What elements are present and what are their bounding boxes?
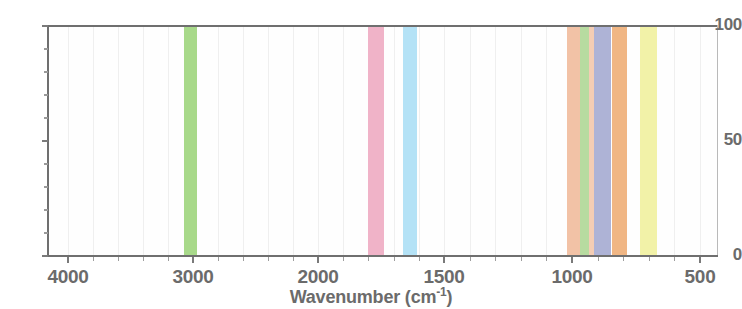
y-axis-minor-tick: [44, 232, 48, 234]
x-axis-minor-tick: [649, 257, 650, 261]
gridline: [268, 26, 269, 256]
gridline: [343, 26, 344, 256]
x-axis-tick: [571, 257, 573, 263]
ir-spectrum-band-chart: 050100 40003000200015001000500 Wavenumbe…: [0, 0, 742, 309]
gridline: [495, 26, 496, 256]
gridline: [68, 26, 69, 256]
gridline: [118, 26, 119, 256]
x-axis-minor-tick: [268, 257, 269, 261]
x-axis-tick: [317, 257, 319, 263]
x-axis-minor-tick: [368, 257, 369, 261]
x-axis-minor-tick: [470, 257, 471, 261]
gridline: [218, 26, 219, 256]
y-axis-tick: [42, 255, 48, 257]
gridline: [444, 26, 445, 256]
x-axis-tick: [67, 257, 69, 263]
gridline: [419, 26, 420, 256]
plot-area: [48, 26, 718, 256]
gridline: [521, 26, 522, 256]
y-axis-tick: [42, 140, 48, 142]
x-axis-minor-tick: [143, 257, 144, 261]
x-axis-minor-tick: [623, 257, 624, 261]
band-fingerprint-d: [594, 26, 612, 256]
y-axis-tick-label: 0: [704, 245, 742, 265]
y-axis-minor-tick: [44, 209, 48, 211]
y-axis-minor-tick: [44, 163, 48, 165]
band-out-of-plane-bend: [640, 26, 657, 256]
x-axis-minor-tick: [674, 257, 675, 261]
gridline: [674, 26, 675, 256]
x-axis-minor-tick: [394, 257, 395, 261]
x-axis-tick: [192, 257, 194, 263]
x-axis-line: [47, 255, 718, 257]
gridline: [168, 26, 169, 256]
x-axis-minor-tick: [546, 257, 547, 261]
x-axis-tick: [443, 257, 445, 263]
gridline: [243, 26, 244, 256]
gridline: [470, 26, 471, 256]
x-axis-title-tail: ): [447, 287, 453, 307]
band-amide: [403, 26, 417, 256]
y-axis-minor-tick: [44, 117, 48, 119]
x-axis-minor-tick: [243, 257, 244, 261]
x-axis-minor-tick: [419, 257, 420, 261]
x-axis-minor-tick: [93, 257, 94, 261]
x-axis-minor-tick: [168, 257, 169, 261]
gridline: [143, 26, 144, 256]
gridline: [700, 26, 701, 256]
y-axis-minor-tick: [44, 94, 48, 96]
gridline: [93, 26, 94, 256]
y-axis-tick: [42, 25, 48, 27]
band-ch-stretch: [184, 26, 198, 256]
x-axis-minor-tick: [118, 257, 119, 261]
x-axis-minor-tick: [521, 257, 522, 261]
gridline: [293, 26, 294, 256]
x-axis-title: Wavenumber (cm-1): [0, 285, 742, 308]
gridline: [394, 26, 395, 256]
x-axis-title-text: Wavenumber (cm: [290, 287, 437, 307]
x-axis-minor-tick: [598, 257, 599, 261]
y-axis-tick-label: 50: [704, 130, 742, 150]
y-axis-tick-label: 100: [704, 15, 742, 35]
x-axis-tick: [699, 257, 701, 263]
x-axis-minor-tick: [293, 257, 294, 261]
gridline: [546, 26, 547, 256]
band-fingerprint-e: [612, 26, 627, 256]
x-axis-title-exponent: -1: [436, 285, 446, 299]
plot-top-border: [48, 25, 718, 27]
y-axis-minor-tick: [44, 48, 48, 50]
x-axis-minor-tick: [343, 257, 344, 261]
band-fingerprint-a: [567, 26, 580, 256]
x-axis-minor-tick: [495, 257, 496, 261]
y-axis-minor-tick: [44, 186, 48, 188]
x-axis-minor-tick: [218, 257, 219, 261]
band-carbonyl: [368, 26, 383, 256]
y-axis-minor-tick: [44, 71, 48, 73]
gridline: [318, 26, 319, 256]
